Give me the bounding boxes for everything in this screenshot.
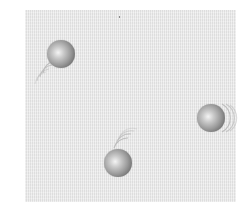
particle-2-sphere [197,104,225,132]
speck-mark [119,16,120,18]
particle-1-sphere [47,40,75,68]
diagram-canvas [0,0,243,213]
particle-3-sphere [104,149,132,177]
